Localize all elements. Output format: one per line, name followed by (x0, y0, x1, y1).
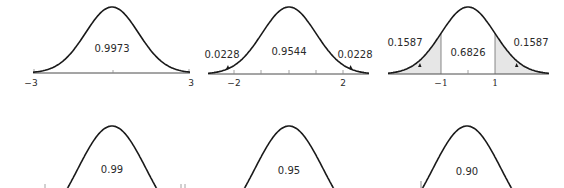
right-tail-probability-label: 0.0228 (338, 49, 373, 60)
panel-6-normal-curve-90: 0.90 (395, 126, 540, 188)
bell-curve (395, 126, 540, 188)
right-tail-probability-label: 0.1587 (514, 37, 549, 48)
center-probability-label: 0.6826 (451, 47, 486, 58)
left-tail-probability-label: 0.0228 (205, 49, 240, 60)
panel-3-normal-curve-1sigma: 0.6826 0.1587 0.1587 −1 1 (388, 7, 550, 88)
center-probability-label: 0.95 (278, 165, 300, 176)
center-probability-label: 0.9973 (95, 43, 130, 54)
bell-curve (33, 7, 190, 72)
bell-curve (220, 126, 360, 188)
right-tail-pointer-icon (349, 65, 353, 69)
tick-label-left: −1 (434, 78, 447, 88)
center-probability-label: 0.9544 (272, 46, 307, 57)
left-tail-probability-label: 0.1587 (388, 37, 423, 48)
tick-label-left: −3 (24, 78, 37, 88)
tick-label-left: −2 (227, 78, 240, 88)
bell-curve (40, 126, 186, 188)
panel-1-normal-curve-3sigma: 0.9973 −3 3 (24, 7, 194, 88)
center-probability-label: 0.99 (101, 164, 123, 175)
normal-distribution-figure: 0.9973 −3 3 0.9544 0.0228 0.0228 −2 2 0.… (0, 0, 564, 188)
tick-label-right: 1 (492, 78, 498, 88)
center-probability-label: 0.90 (456, 166, 478, 177)
tick-label-right: 2 (340, 78, 346, 88)
left-tail-pointer-icon (226, 65, 230, 69)
panel-2-normal-curve-2sigma: 0.9544 0.0228 0.0228 −2 2 (205, 7, 373, 88)
panel-4-normal-curve-99: 0.99 (40, 126, 186, 188)
panel-5-normal-curve-95: 0.95 (185, 126, 360, 188)
bell-curve (208, 7, 369, 73)
tick-label-right: 3 (188, 78, 194, 88)
